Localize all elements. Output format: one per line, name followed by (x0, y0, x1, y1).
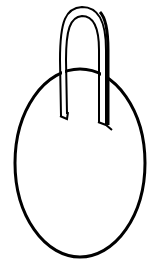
strap-left-fill (62, 70, 65, 113)
tag-drawing (0, 0, 159, 263)
background (0, 0, 159, 263)
strap-right-fill (101, 70, 105, 120)
